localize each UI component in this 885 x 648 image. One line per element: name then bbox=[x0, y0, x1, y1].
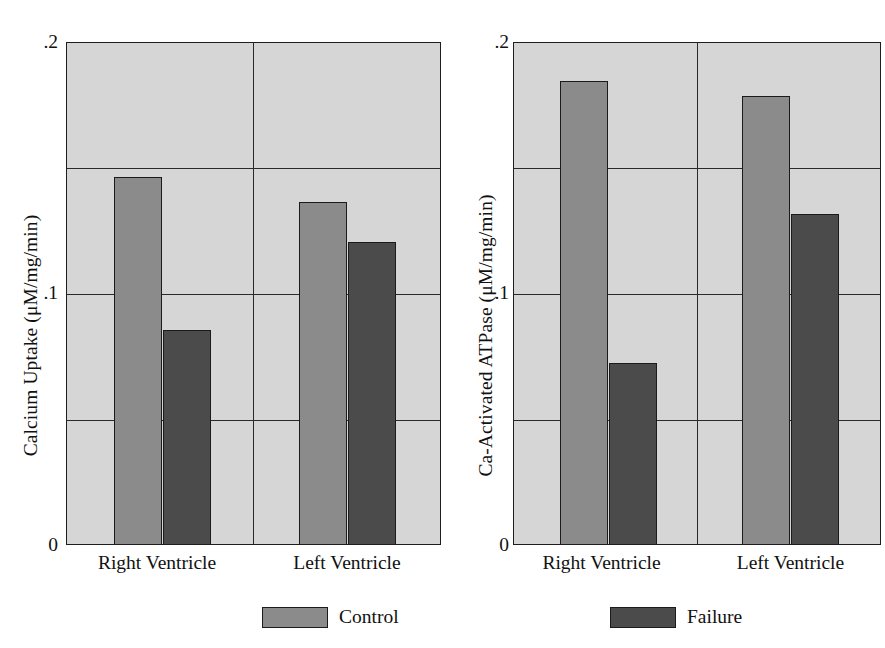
chart-legend: Control Failure bbox=[0, 600, 885, 648]
bar-control-right-ventricle-left bbox=[114, 177, 162, 544]
x-axis-labels-left: Right Ventricle Left Ventricle bbox=[66, 552, 441, 586]
y-tick-label-bottom-right: 0 bbox=[475, 535, 509, 555]
figure-grouped-bar-charts: Calcium Uptake (μM/mg/min) .2 .1 0 Right… bbox=[0, 0, 885, 648]
chart-panel-calcium-uptake: Calcium Uptake (μM/mg/min) .2 .1 0 Right… bbox=[0, 0, 455, 600]
y-tick-label-bottom-left: 0 bbox=[24, 535, 58, 555]
chart-panel-ca-activated-atpase: Ca-Activated ATPase (μM/mg/min) .2 .1 0 … bbox=[455, 0, 885, 600]
legend-swatch-control-icon bbox=[262, 607, 328, 628]
bar-failure-left-ventricle-left bbox=[348, 242, 396, 544]
plot-area-left bbox=[66, 42, 441, 545]
y-tick-label-top-left: .2 bbox=[24, 32, 58, 52]
group-divider-right bbox=[697, 43, 698, 544]
x-label-right-ventricle-right: Right Ventricle bbox=[507, 552, 696, 574]
legend-label-failure: Failure bbox=[687, 606, 742, 628]
y-axis-ticks-right: .2 .1 0 bbox=[475, 0, 509, 600]
y-tick-label-mid-left: .1 bbox=[24, 283, 58, 303]
legend-swatch-failure-icon bbox=[610, 607, 676, 628]
y-axis-ticks-left: .2 .1 0 bbox=[24, 0, 58, 600]
bar-failure-right-ventricle-left bbox=[163, 330, 211, 544]
x-axis-labels-right: Right Ventricle Left Ventricle bbox=[513, 552, 881, 586]
x-label-left-ventricle-right: Left Ventricle bbox=[696, 552, 885, 574]
plot-area-right bbox=[513, 42, 881, 545]
legend-entry-control: Control bbox=[262, 606, 399, 628]
group-divider-left bbox=[253, 43, 254, 544]
x-label-left-ventricle-left: Left Ventricle bbox=[252, 552, 442, 574]
bar-control-right-ventricle-right bbox=[560, 81, 608, 544]
y-tick-label-top-right: .2 bbox=[475, 32, 509, 52]
legend-label-control: Control bbox=[339, 606, 399, 628]
legend-entry-failure: Failure bbox=[610, 606, 742, 628]
bar-failure-left-ventricle-right bbox=[791, 214, 839, 544]
bar-failure-right-ventricle-right bbox=[609, 363, 657, 544]
x-label-right-ventricle-left: Right Ventricle bbox=[62, 552, 252, 574]
bar-control-left-ventricle-right bbox=[742, 96, 790, 544]
y-tick-label-mid-right: .1 bbox=[475, 283, 509, 303]
bar-control-left-ventricle-left bbox=[299, 202, 347, 544]
